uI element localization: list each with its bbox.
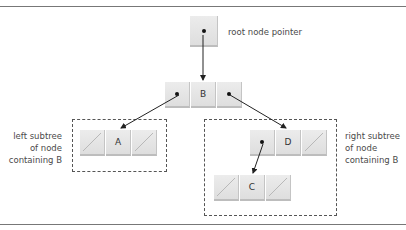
root-pointer-cell	[190, 16, 218, 47]
null-left-pointer-cell	[80, 130, 105, 156]
value-cell: A	[106, 130, 131, 156]
pointer-dot-icon	[202, 29, 206, 33]
null-right-pointer-cell	[266, 175, 291, 201]
left-pointer-cell	[165, 82, 190, 108]
left-pointer-cell	[250, 130, 275, 156]
tree-node-c: C	[214, 175, 291, 201]
bottom-rule	[0, 224, 406, 225]
root-pointer-box	[190, 16, 218, 47]
null-left-pointer-cell	[214, 175, 239, 201]
null-right-pointer-cell	[132, 130, 157, 156]
value-cell: B	[191, 82, 216, 108]
right-pointer-cell	[217, 82, 242, 108]
pointer-dot-icon	[227, 92, 231, 96]
right-subtree-label: right subtree of node containing B	[345, 130, 400, 166]
tree-node-d: D	[250, 130, 327, 156]
top-rule	[0, 6, 406, 7]
value-cell: C	[240, 175, 265, 201]
tree-node-b: B	[165, 82, 242, 108]
pointer-dot-icon	[260, 140, 264, 144]
tree-node-a: A	[80, 130, 157, 156]
left-subtree-label: left subtree of node containing B	[0, 130, 62, 166]
root-pointer-label: root node pointer	[228, 26, 302, 38]
pointer-dot-icon	[175, 92, 179, 96]
null-right-pointer-cell	[302, 130, 327, 156]
value-cell: D	[276, 130, 301, 156]
